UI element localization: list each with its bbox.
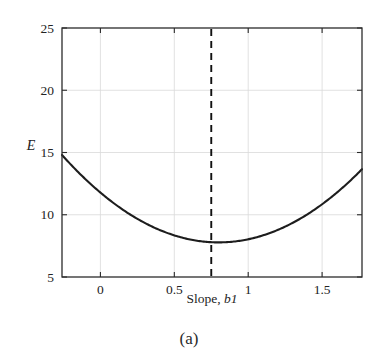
figure-panel: 510152025 00.511.5 E Slope, b1 (a): [0, 0, 379, 361]
chart-canvas: 510152025 00.511.5 E Slope, b1 (a): [0, 0, 379, 361]
x-axis-title-prefix: Slope,: [186, 291, 224, 306]
x-tick-label: 1: [245, 282, 252, 297]
x-axis-title: Slope, b1: [186, 291, 237, 306]
x-tick-label: 1.5: [314, 282, 331, 297]
y-tick-label: 15: [41, 145, 55, 160]
x-tick-label: 0: [97, 282, 104, 297]
y-axis-tick-labels: 510152025: [41, 21, 55, 285]
x-axis-title-symbol: b1: [224, 291, 238, 306]
y-tick-label: 25: [41, 21, 55, 36]
y-axis-title: E: [26, 138, 36, 153]
x-tick-label: 0.5: [166, 282, 183, 297]
y-tick-label: 20: [41, 83, 55, 98]
y-tick-label: 5: [47, 270, 54, 285]
figure-caption: (a): [180, 329, 199, 348]
y-tick-label: 10: [41, 207, 55, 222]
